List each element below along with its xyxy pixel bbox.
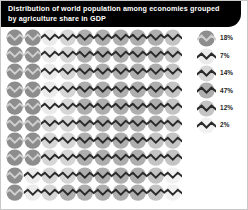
waffle-cell: [76, 132, 94, 149]
zigzag-chevron-icon: [197, 48, 216, 65]
waffle-cell: [94, 132, 112, 149]
waffle-cell: [164, 167, 182, 184]
waffle-cell: [112, 115, 130, 132]
waffle-cell: [129, 149, 147, 166]
waffle-cell: [76, 29, 94, 46]
waffle-cell: [94, 81, 112, 98]
waffle-cell: [76, 149, 94, 166]
waffle-cell: [147, 167, 165, 184]
waffle-cell: [112, 184, 130, 201]
waffle-cell: [6, 46, 24, 63]
waffle-cell: [112, 81, 130, 98]
waffle-cell: [94, 184, 112, 201]
waffle-cell: [6, 184, 24, 201]
legend-item[interactable]: 7%: [197, 47, 245, 64]
waffle-cell: [147, 63, 165, 80]
waffle-cell: [59, 132, 77, 149]
waffle-cell: [129, 184, 147, 201]
waffle-cell: [164, 115, 182, 132]
waffle-cell: [129, 63, 147, 80]
waffle-cell: [94, 167, 112, 184]
waffle-cell: [6, 29, 24, 46]
waffle-cell: [59, 167, 77, 184]
waffle-cell: [112, 149, 130, 166]
waffle-cell: [164, 184, 182, 201]
waffle-cell: [41, 132, 59, 149]
zigzag-chevron-icon: [197, 117, 216, 134]
legend-item[interactable]: 18%: [197, 30, 245, 47]
waffle-cell: [129, 81, 147, 98]
waffle-cell: [24, 29, 42, 46]
legend-item[interactable]: 14%: [197, 65, 245, 82]
waffle-cell: [59, 98, 77, 115]
waffle-cell: [147, 29, 165, 46]
waffle-cell: [94, 63, 112, 80]
zigzag-chevron-icon: [197, 100, 216, 117]
waffle-cell: [24, 184, 42, 201]
waffle-cell: [112, 167, 130, 184]
waffle-cell: [24, 98, 42, 115]
legend-item-label: 12%: [220, 105, 233, 111]
waffle-cell: [94, 149, 112, 166]
waffle-cell: [94, 29, 112, 46]
legend-item-label: 47%: [220, 88, 233, 94]
waffle-cell: [164, 63, 182, 80]
waffle-cell: [164, 46, 182, 63]
waffle-cell: [24, 115, 42, 132]
waffle-cell: [41, 46, 59, 63]
waffle-cell: [164, 98, 182, 115]
waffle-cell: [59, 46, 77, 63]
waffle-cell: [94, 98, 112, 115]
waffle-cell: [6, 63, 24, 80]
legend-item-label: 18%: [220, 35, 233, 41]
legend-item-label: 7%: [220, 53, 229, 59]
waffle-cell: [24, 167, 42, 184]
waffle-cell: [41, 184, 59, 201]
waffle-cell: [6, 167, 24, 184]
waffle-cell: [76, 46, 94, 63]
waffle-cell: [129, 98, 147, 115]
waffle-cell: [41, 115, 59, 132]
zigzag-chevron-icon: [197, 65, 216, 82]
waffle-cell: [59, 115, 77, 132]
waffle-cell: [147, 149, 165, 166]
waffle-grid: [6, 29, 182, 201]
legend-item[interactable]: 2%: [197, 117, 245, 134]
waffle-cell: [129, 167, 147, 184]
waffle-cell: [41, 29, 59, 46]
waffle-cell: [24, 149, 42, 166]
waffle-cell: [129, 132, 147, 149]
waffle-cell: [41, 81, 59, 98]
waffle-cell: [147, 115, 165, 132]
waffle-cell: [76, 115, 94, 132]
waffle-cell: [76, 63, 94, 80]
zigzag-chevron-icon: [197, 82, 216, 99]
waffle-cell: [24, 132, 42, 149]
waffle-cell: [164, 132, 182, 149]
waffle-cell: [59, 63, 77, 80]
zigzag-chevron-icon: [197, 30, 216, 47]
waffle-cell: [147, 132, 165, 149]
waffle-cell: [112, 63, 130, 80]
waffle-cell: [164, 81, 182, 98]
chart-header: Distribution of world population among e…: [1, 1, 241, 27]
waffle-cell: [6, 149, 24, 166]
waffle-cell: [76, 167, 94, 184]
legend-item[interactable]: 47%: [197, 82, 245, 99]
waffle-cell: [129, 46, 147, 63]
waffle-cell: [6, 132, 24, 149]
waffle-cell: [112, 29, 130, 46]
waffle-cell: [94, 46, 112, 63]
waffle-cell: [164, 149, 182, 166]
waffle-cell: [24, 81, 42, 98]
waffle-cell: [6, 98, 24, 115]
waffle-cell: [59, 149, 77, 166]
waffle-cell: [94, 115, 112, 132]
waffle-cell: [76, 81, 94, 98]
legend-item[interactable]: 12%: [197, 100, 245, 117]
waffle-cell: [41, 63, 59, 80]
waffle-cell: [59, 29, 77, 46]
legend-item-label: 2%: [220, 122, 229, 128]
waffle-cell: [76, 184, 94, 201]
waffle-cell: [76, 98, 94, 115]
